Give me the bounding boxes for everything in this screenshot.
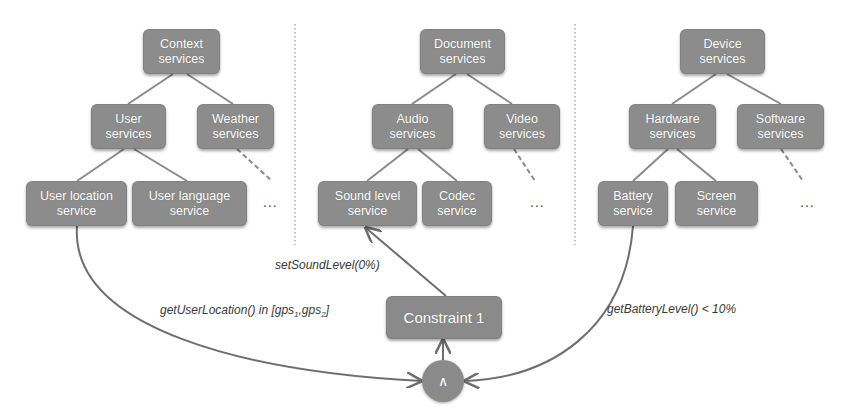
and-operator-node: ∧ bbox=[422, 360, 464, 402]
video-services-node: Video services bbox=[484, 104, 560, 149]
battery-service-node: Battery service bbox=[598, 181, 668, 226]
sound-level-service-node: Sound level service bbox=[318, 181, 417, 226]
audio-services-node: Audio services bbox=[372, 104, 453, 149]
user-language-service-node: User language service bbox=[132, 181, 247, 226]
constraint-1-node: Constraint 1 bbox=[386, 296, 502, 339]
get-user-location-mid: ,gps bbox=[299, 303, 322, 317]
context-services-node: Context services bbox=[143, 29, 220, 74]
user-location-service-node: User location service bbox=[26, 181, 127, 226]
screen-service-node: Screen service bbox=[675, 181, 758, 226]
get-battery-level-label: getBatteryLevel() < 10% bbox=[607, 302, 736, 316]
service-constraint-diagram: Context services User services Weather s… bbox=[0, 0, 850, 419]
document-services-node: Document services bbox=[420, 29, 505, 74]
get-user-location-text: getUserLocation() in [gps bbox=[160, 303, 294, 317]
user-services-node: User services bbox=[91, 104, 166, 149]
ellipsis-group-1: ... bbox=[263, 194, 278, 210]
ellipsis-group-2: ... bbox=[530, 194, 545, 210]
weather-services-node: Weather services bbox=[197, 104, 274, 149]
codec-service-node: Codec service bbox=[422, 181, 492, 226]
hardware-services-node: Hardware services bbox=[629, 104, 716, 149]
software-services-node: Software services bbox=[737, 104, 824, 149]
set-sound-level-label: setSoundLevel(0%) bbox=[275, 258, 380, 272]
get-user-location-suffix: ] bbox=[326, 303, 329, 317]
get-user-location-label: getUserLocation() in [gps1,gps2] bbox=[160, 303, 329, 319]
device-services-node: Device services bbox=[680, 29, 765, 74]
ellipsis-group-3: ... bbox=[800, 194, 815, 210]
